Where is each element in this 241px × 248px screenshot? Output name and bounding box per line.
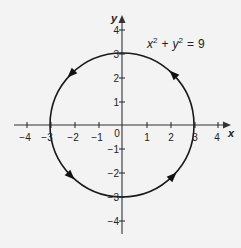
tick-label: 3: [113, 49, 119, 60]
tick-label: −4: [19, 132, 31, 143]
tick-label: 2: [168, 132, 174, 143]
tick-label: 4: [214, 132, 220, 143]
tick-label: 0: [114, 128, 120, 139]
equation-exp-x: 2: [153, 36, 158, 45]
tick-label: −1: [108, 144, 120, 155]
equation-label: x2+y2=9: [146, 36, 205, 51]
tick-label: 1: [144, 132, 150, 143]
x-axis-label: x: [227, 127, 235, 139]
equation-equals: =: [187, 37, 194, 51]
tick-label: −3: [108, 192, 120, 203]
equation-rhs: 9: [198, 37, 205, 51]
tick-label: −4: [108, 216, 120, 227]
tick-label: 4: [113, 25, 119, 36]
tick-label: −3: [41, 132, 53, 143]
y-axis: [119, 20, 125, 234]
equation-plus: +: [161, 37, 168, 51]
tick-label: −2: [108, 168, 120, 179]
y-tick-labels: 4 3 2 1 −1 −2 −3 −4: [108, 25, 120, 227]
tick-label: −1: [91, 132, 103, 143]
tick-label: 3: [192, 132, 198, 143]
circle-graph: x y −4 −3 −2 −1 0 1 2 3 4 4 3 2 1 −1 −2 …: [0, 0, 241, 248]
y-axis-label: y: [110, 12, 118, 24]
tick-label: 2: [113, 73, 119, 84]
equation-exp-y: 2: [178, 36, 183, 45]
y-axis-arrow-icon: [119, 15, 126, 23]
tick-label: −2: [67, 132, 79, 143]
tick-label: 1: [113, 97, 119, 108]
